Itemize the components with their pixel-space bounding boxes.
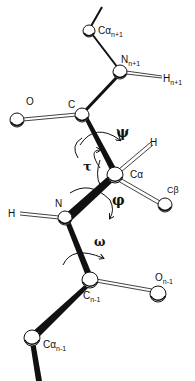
bond-n-next-c [84, 76, 118, 112]
bond-ca-cb [120, 178, 160, 201]
tau-arrow [94, 150, 100, 168]
bond-c-prev-o-prev-2 [96, 282, 152, 292]
label-c: C [68, 99, 75, 110]
bond-c-prev-o-prev [96, 279, 152, 289]
atom-cb [158, 198, 172, 212]
label-omega: ω [94, 235, 105, 249]
atom-ca-next [83, 25, 95, 37]
label-ca: Cα [130, 169, 143, 180]
atom-ca-prev [24, 330, 40, 346]
bond-ca-h-2 [121, 145, 153, 172]
atom-o [10, 113, 24, 127]
atom-c [75, 108, 89, 122]
label-ca-next: Cαn+1 [98, 25, 123, 38]
label-o-prev: On-1 [155, 272, 173, 285]
atom-c-prev [82, 272, 98, 288]
bond-ca-prev-tail [30, 341, 42, 381]
backbone-bonds [30, 7, 118, 381]
bond-ca-h [119, 142, 151, 169]
atom-n [58, 211, 72, 225]
bond-n-next-h [126, 71, 162, 76]
label-c-prev: Cn-1 [83, 290, 100, 303]
label-tau: τ [83, 159, 92, 174]
atom-n-next [113, 65, 127, 79]
label-n: N [55, 198, 62, 209]
bond-ca-next-n-next [92, 34, 118, 68]
atom-ca [107, 167, 123, 183]
tau-arc [75, 138, 82, 158]
label-cb: Cβ [167, 185, 179, 195]
label-n-next: Nn+1 [121, 54, 140, 67]
bond-c-o-2 [23, 116, 77, 121]
label-phi: φ [112, 192, 125, 208]
bond-n-c-prev [65, 221, 93, 279]
bond-c-o [23, 113, 77, 118]
atom-o-prev [150, 286, 166, 302]
label-h-n: H [8, 208, 15, 219]
peptide-diagram: Cαn+1 Nn+1 Hn+1 C O Cα H Cβ N H Cn-1 On-… [0, 0, 195, 381]
label-h-ca: H [150, 137, 157, 148]
label-psi: ψ [116, 124, 129, 140]
label-o: O [26, 96, 34, 107]
bond-n-next-h-2 [126, 74, 162, 78]
label-ca-prev: Cαn-1 [43, 339, 66, 352]
label-h-next: Hn+1 [163, 73, 182, 86]
